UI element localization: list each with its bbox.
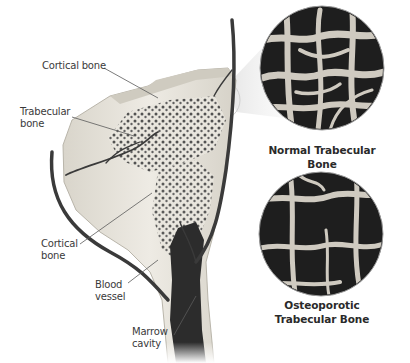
label-cortical-bone-top: Cortical bone bbox=[42, 60, 106, 72]
osteoporotic-trabecular-inset bbox=[259, 172, 384, 300]
label-cortical-side-line2: bone bbox=[41, 250, 78, 262]
label-cortical-side-line1: Cortical bbox=[41, 238, 78, 250]
label-marrow-cavity: Marrow cavity bbox=[132, 326, 168, 350]
label-marrow-cavity-line1: Marrow bbox=[132, 326, 168, 338]
label-trabecular-line1: Trabecular bbox=[20, 106, 70, 118]
label-marrow-cavity-line2: cavity bbox=[132, 338, 168, 350]
caption-osteoporotic-trabecular-bone: Osteoporotic Trabecular Bone bbox=[252, 298, 392, 326]
bone-diagram: Cortical bone Trabecular bone Cortical b… bbox=[0, 0, 410, 363]
label-blood-vessel-line2: vessel bbox=[95, 291, 125, 303]
normal-trabecular-inset bbox=[260, 6, 384, 130]
label-blood-vessel: Blood vessel bbox=[95, 279, 125, 303]
label-trabecular-bone: Trabecular bone bbox=[20, 106, 70, 130]
label-cortical-bone-side: Cortical bone bbox=[41, 238, 78, 262]
label-trabecular-line2: bone bbox=[20, 118, 70, 130]
caption-osteoporotic-line2: Trabecular Bone bbox=[252, 312, 392, 326]
bone-head bbox=[60, 68, 240, 363]
caption-normal-trabecular-bone: Normal Trabecular Bone bbox=[252, 143, 392, 171]
label-blood-vessel-line1: Blood bbox=[95, 279, 125, 291]
caption-osteoporotic-line1: Osteoporotic bbox=[252, 298, 392, 312]
